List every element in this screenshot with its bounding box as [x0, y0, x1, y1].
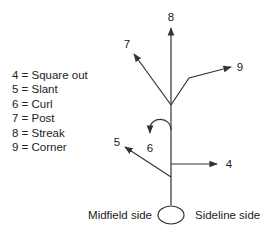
- route-label-4: 4: [226, 158, 233, 170]
- route-label-8: 8: [168, 11, 174, 23]
- route-label-9: 9: [237, 61, 243, 73]
- football-icon: [158, 206, 184, 224]
- midfield-side-label: Midfield side: [88, 209, 152, 221]
- route-post-line: [134, 54, 171, 105]
- route-tree-diagram: 8 7 9 6 5 4 Midfield side Sideline side: [0, 0, 270, 245]
- route-label-5: 5: [114, 136, 120, 148]
- route-curl-line: [150, 119, 171, 133]
- route-label-7: 7: [124, 38, 130, 50]
- route-label-6: 6: [147, 142, 153, 154]
- sideline-side-label: Sideline side: [195, 209, 260, 221]
- route-corner-line: [171, 67, 231, 105]
